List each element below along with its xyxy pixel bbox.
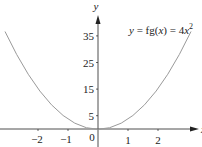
equation-label: y = fg(x) = 4x2 (128, 22, 193, 37)
origin-label: 0 (89, 131, 95, 143)
x-tick-label-m2: −2 (31, 133, 43, 145)
y-tick-label-15: 15 (83, 83, 95, 95)
x-axis-arrow-icon (190, 127, 199, 132)
y-axis-label: y (93, 0, 99, 12)
x-tick-label-2: 2 (155, 134, 161, 146)
y-tick-label-5: 5 (89, 110, 95, 122)
x-tick-label-m1: −1 (60, 133, 72, 145)
x-tick-label-1: 1 (125, 134, 131, 146)
x-axis-label: x (200, 123, 202, 135)
y-tick-label-35: 35 (83, 30, 95, 42)
y-axis-arrow-icon (96, 15, 101, 24)
chart: 5 15 25 35 −2 −1 0 1 2 y x y = fg(x) = 4… (0, 0, 202, 147)
y-tick-label-25: 25 (83, 57, 95, 69)
